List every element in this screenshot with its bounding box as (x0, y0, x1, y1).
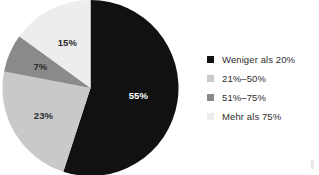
legend-swatch-icon (207, 56, 214, 63)
legend-item-label: 21%–50% (222, 73, 266, 84)
pie-slice-value-label: 7% (33, 61, 47, 72)
legend-item-label: Mehr als 75% (222, 111, 281, 122)
legend-swatch-icon (207, 113, 214, 120)
legend-item[interactable]: 51%–75% (207, 88, 317, 107)
legend-item-label: 51%–75% (222, 92, 266, 103)
pie-slice-value-label: 55% (129, 90, 149, 101)
pie-chart-figure: 55%23%7%15% Weniger als 20%21%–50%51%–75… (0, 0, 319, 175)
chart-legend: Weniger als 20%21%–50%51%–75%Mehr als 75… (207, 50, 317, 126)
pie-chart-svg: 55%23%7%15% (0, 0, 195, 175)
pie-slice-value-label: 15% (58, 37, 78, 48)
pie-slice-value-label: 23% (34, 110, 54, 121)
legend-item[interactable]: 21%–50% (207, 69, 317, 88)
legend-swatch-icon (207, 94, 214, 101)
pie-chart-plot-area: 55%23%7%15% (0, 0, 195, 175)
scan-artifact (311, 160, 314, 169)
pie-slice-group (3, 0, 179, 175)
legend-item-label: Weniger als 20% (222, 54, 295, 65)
legend-item[interactable]: Weniger als 20% (207, 50, 317, 69)
legend-swatch-icon (207, 75, 214, 82)
legend-item[interactable]: Mehr als 75% (207, 107, 317, 126)
